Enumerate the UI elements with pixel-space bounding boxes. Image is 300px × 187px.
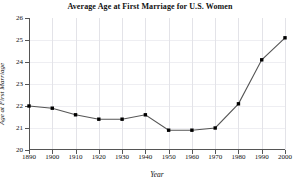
x-tick-label: 1980 xyxy=(231,154,245,161)
data-point-marker xyxy=(237,102,240,105)
data-point-marker xyxy=(27,104,30,107)
data-point-marker xyxy=(51,107,54,110)
x-axis-label: Year xyxy=(29,170,285,179)
x-tick-label: 1950 xyxy=(162,154,176,161)
data-point-marker xyxy=(97,118,100,121)
data-point-marker xyxy=(260,58,263,61)
x-tick-label: 1890 xyxy=(22,154,36,161)
data-point-marker xyxy=(167,129,170,132)
x-tick-label: 1960 xyxy=(185,154,199,161)
x-tick-label: 1930 xyxy=(115,154,129,161)
plot-area: 20212223242526 1890190019101920193019401… xyxy=(29,18,285,150)
x-tick-label: 1900 xyxy=(45,154,59,161)
x-tick-label: 1970 xyxy=(208,154,222,161)
y-tick-label: 21 xyxy=(16,125,23,132)
y-tick-label: 26 xyxy=(16,15,23,22)
data-point-marker xyxy=(190,129,193,132)
series-polyline xyxy=(29,38,285,130)
y-tick-label: 23 xyxy=(16,81,23,88)
y-tick-label: 22 xyxy=(16,103,23,110)
data-point-marker xyxy=(283,36,286,39)
chart-title: Average Age at First Marriage for U.S. W… xyxy=(0,2,300,11)
data-point-marker xyxy=(213,126,216,129)
x-tick-label: 2000 xyxy=(278,154,292,161)
y-tick-label: 24 xyxy=(16,59,23,66)
y-axis-label: Age at First Marriage xyxy=(0,39,6,149)
data-series-line xyxy=(29,18,285,150)
x-tick-label: 1990 xyxy=(255,154,269,161)
data-point-marker xyxy=(120,118,123,121)
data-point-marker xyxy=(74,113,77,116)
x-tick-label: 1920 xyxy=(92,154,106,161)
y-tick-label: 25 xyxy=(16,37,23,44)
data-point-marker xyxy=(144,113,147,116)
x-tick-label: 1940 xyxy=(138,154,152,161)
x-tick-label: 1910 xyxy=(69,154,83,161)
chart-container: Average Age at First Marriage for U.S. W… xyxy=(0,0,300,187)
